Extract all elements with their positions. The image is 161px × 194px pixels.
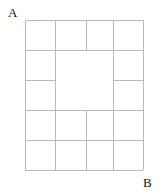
vertex-label-a: A (8, 6, 17, 19)
grid-diagram (0, 0, 161, 194)
vertex-label-b: B (143, 176, 152, 189)
grid-line-group (25, 20, 143, 170)
figure-container: A B (0, 0, 161, 194)
